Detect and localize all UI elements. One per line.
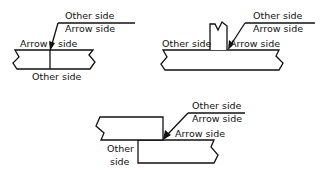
weld-sides-figure: Other side Arrow side Arrow side Other s… <box>0 0 320 171</box>
tee-web-plate <box>210 22 227 50</box>
other-side-label-line2: side <box>110 156 130 167</box>
arrow-side-label: Arrow side <box>230 38 280 49</box>
ref-above-label: Other side <box>253 10 303 21</box>
ref-below-label: Arrow side <box>192 113 242 124</box>
ref-above-label: Other side <box>65 10 115 21</box>
ref-below-label: Arrow side <box>253 23 303 34</box>
arrow-side-left-label: Arrow <box>20 38 48 49</box>
ref-below-label: Arrow side <box>65 23 115 34</box>
ref-above-label: Other side <box>192 100 242 111</box>
other-side-label: Other side <box>162 38 212 49</box>
lap-bottom-plate <box>138 140 218 163</box>
other-side-label: Other side <box>32 71 82 82</box>
lap-joint-diagram: Other side Arrow side Arrow side Other s… <box>96 100 245 167</box>
lap-top-plate <box>96 117 163 140</box>
tee-joint-diagram: Other side Arrow side Other side Arrow s… <box>161 10 315 70</box>
arrow-side-label: Arrow side <box>175 128 225 139</box>
arrow-side-right-label: side <box>58 38 78 49</box>
butt-joint-diagram: Other side Arrow side Arrow side Other s… <box>13 10 135 82</box>
other-side-label-line1: Other <box>107 143 134 154</box>
tee-base-plate <box>161 50 283 70</box>
butt-plate <box>13 50 95 69</box>
